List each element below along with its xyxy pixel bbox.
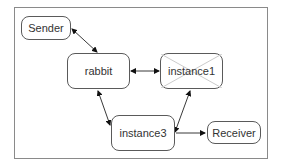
node-instance1: instance1 [160,53,223,89]
node-instance3: instance3 [111,115,175,151]
node-label: instance3 [119,127,166,139]
node-label: rabbit [85,65,113,77]
node-rabbit: rabbit [67,53,130,89]
node-sender: Sender [21,16,71,40]
node-label: instance1 [168,65,215,77]
node-receiver: Receiver [207,121,261,144]
node-label: Receiver [212,127,255,139]
node-label: Sender [28,22,63,34]
